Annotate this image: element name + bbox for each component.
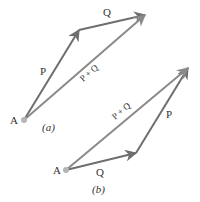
label-q-a: Q — [103, 6, 111, 18]
label-resultant-a: P + Q — [78, 62, 101, 83]
panel-a: A P Q P + Q (a) — [10, 6, 145, 134]
caption-a: (a) — [42, 121, 55, 134]
panel-b: A Q P P + Q (b) — [53, 68, 188, 196]
vector-addition-diagram: A P Q P + Q (a) A Q P P + Q (b) — [0, 0, 200, 202]
vector-p-a — [24, 30, 79, 120]
point-label-a: A — [10, 114, 18, 126]
point-a-b — [63, 167, 69, 173]
point-a-a — [21, 117, 27, 123]
caption-b: (b) — [92, 183, 105, 196]
diagram-svg: A P Q P + Q (a) A Q P P + Q (b) — [0, 0, 200, 202]
vector-p-b — [136, 68, 188, 153]
label-p-b: P — [166, 108, 172, 120]
label-p-a: P — [40, 65, 46, 77]
label-q-b: Q — [96, 166, 104, 178]
point-label-b: A — [53, 164, 61, 176]
